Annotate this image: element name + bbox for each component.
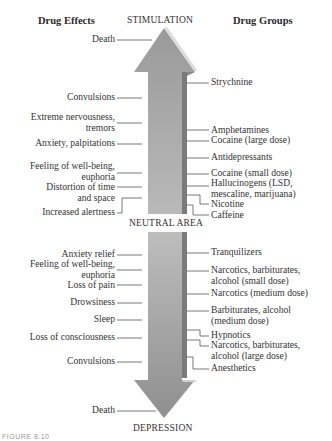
depression-label: DEPRESSION: [133, 423, 193, 433]
drug-groups-header: Drug Groups: [233, 15, 293, 26]
drug-narcotics-small: Narcotics, barbiturates, alcohol (small …: [211, 265, 300, 286]
drug-strychnine: Strychnine: [211, 77, 253, 88]
effect-extreme-nervousness: Extreme nervousness, tremors: [31, 112, 115, 133]
drug-nicotine: Nicotine: [211, 199, 244, 210]
effect-well-being-stimulation: Feeling of well-being, euphoria: [30, 161, 115, 182]
effect-loss-of-pain: Loss of pain: [68, 280, 115, 291]
effect-well-being-depression: Feeling of well-being, euphoria: [30, 259, 115, 280]
drug-hallucinogens: Hallucinogens (LSD, mescaline, marijuana…: [211, 178, 296, 199]
effect-increased-alertness: Increased alertness: [42, 207, 115, 218]
effect-distortion-time-space: Distortion of time and space: [46, 182, 115, 203]
effect-death-depression: Death: [92, 405, 115, 416]
effect-convulsions-depression: Convulsions: [67, 356, 115, 367]
drug-narcotics-large: Narcotics, barbiturates, alcohol (large …: [211, 340, 300, 361]
drug-caffeine: Caffeine: [211, 210, 244, 221]
drug-effects-header: Drug Effects: [38, 15, 95, 26]
neutral-area-label: NEUTRAL AREA: [129, 218, 203, 228]
drug-tranquilizers: Tranquilizers: [211, 247, 262, 258]
effect-sleep: Sleep: [94, 314, 115, 325]
stimulation-label: STIMULATION: [127, 15, 193, 25]
drug-barbiturates-medium: Barbiturates, alcohol (medium dose): [211, 305, 291, 326]
effect-anxiety-palpitations: Anxiety, palpitations: [35, 138, 115, 149]
drug-cocaine-large: Cocaine (large dose): [211, 135, 290, 146]
effect-convulsions-stimulation: Convulsions: [67, 92, 115, 103]
effect-drowsiness: Drowsiness: [70, 297, 115, 308]
drug-antidepressants: Antidepressants: [211, 152, 272, 163]
figure-caption: FIGURE 8.10: [2, 433, 50, 440]
drug-anesthetics: Anesthetics: [211, 363, 256, 374]
drug-narcotics-medium: Narcotics (medium dose): [211, 288, 308, 299]
depression-arrow-icon: [134, 232, 196, 418]
effect-death-stimulation: Death: [92, 34, 115, 45]
effect-loss-of-consciousness: Loss of consciousness: [30, 332, 115, 343]
